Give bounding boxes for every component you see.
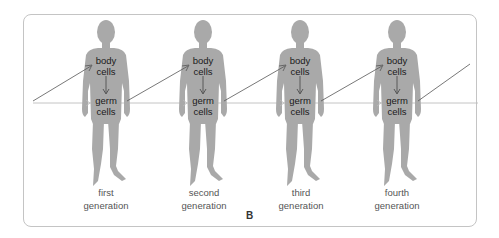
body-cells-label-4: body cells	[377, 55, 417, 77]
generation-word: generation	[61, 199, 151, 212]
generation-ordinal: fourth	[352, 186, 442, 199]
germ-cells-label-4: germ cells	[377, 95, 417, 117]
body-cells-label-2: body cells	[183, 55, 223, 77]
germ-cells-label-2: germ cells	[183, 95, 223, 117]
body-cells-label-3: body cells	[280, 55, 320, 77]
body-word: body	[183, 55, 223, 66]
cells-word: cells	[183, 106, 223, 117]
cells-word: cells	[86, 106, 126, 117]
panel-letter: B	[246, 210, 253, 221]
cells-word: cells	[377, 106, 417, 117]
generation-label-1: first generation	[61, 186, 151, 212]
generation-label-2: second generation	[159, 186, 249, 212]
cells-word: cells	[86, 66, 126, 77]
germ-word: germ	[86, 95, 126, 106]
body-word: body	[280, 55, 320, 66]
cells-word: cells	[377, 66, 417, 77]
generation-label-3: third generation	[256, 186, 346, 212]
germ-cells-label-1: germ cells	[86, 95, 126, 117]
generation-ordinal: first	[61, 186, 151, 199]
cells-word: cells	[183, 66, 223, 77]
cells-word: cells	[280, 106, 320, 117]
body-word: body	[86, 55, 126, 66]
generation-word: generation	[159, 199, 249, 212]
germ-word: germ	[280, 95, 320, 106]
germ-word: germ	[377, 95, 417, 106]
generation-word: generation	[256, 199, 346, 212]
cells-word: cells	[280, 66, 320, 77]
generation-ordinal: third	[256, 186, 346, 199]
generation-label-4: fourth generation	[352, 186, 442, 212]
body-word: body	[377, 55, 417, 66]
germ-cells-label-3: germ cells	[280, 95, 320, 117]
germ-word: germ	[183, 95, 223, 106]
generation-word: generation	[352, 199, 442, 212]
body-cells-label-1: body cells	[86, 55, 126, 77]
generation-ordinal: second	[159, 186, 249, 199]
